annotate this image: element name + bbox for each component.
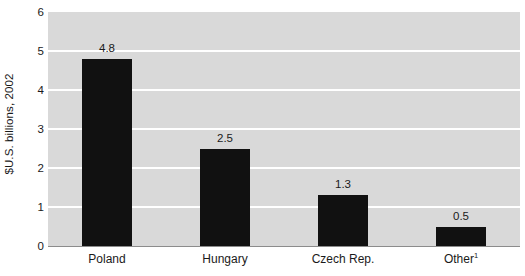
bar-value-label: 4.8 bbox=[77, 42, 137, 55]
y-axis-tick-label: 5 bbox=[22, 45, 44, 57]
y-axis-tick-label: 2 bbox=[22, 162, 44, 174]
bars-layer: 4.82.51.30.5 bbox=[48, 12, 520, 246]
plot-area: 4.82.51.30.5 bbox=[48, 12, 520, 246]
y-axis-tick-label: 3 bbox=[22, 123, 44, 135]
y-axis-tick-label: 6 bbox=[22, 6, 44, 18]
bar bbox=[436, 227, 486, 247]
x-axis-category-label: Hungary bbox=[165, 252, 285, 266]
x-axis-category-labels: PolandHungaryCzech Rep.Other1 bbox=[48, 252, 520, 272]
bar bbox=[318, 195, 368, 246]
bar-value-label: 2.5 bbox=[195, 132, 255, 145]
x-axis-category-label: Czech Rep. bbox=[283, 252, 403, 266]
bar-chart: $U.S. billions, 2002 6543210 4.82.51.30.… bbox=[0, 0, 525, 276]
bar-value-label: 0.5 bbox=[431, 210, 491, 223]
y-axis-tick-label: 1 bbox=[22, 201, 44, 213]
x-axis-category-label: Poland bbox=[47, 252, 167, 266]
x-axis-category-label: Other1 bbox=[401, 252, 521, 266]
footnote-marker: 1 bbox=[474, 251, 478, 260]
y-axis-title: $U.S. billions, 2002 bbox=[1, 1, 17, 247]
y-axis-tick-label: 4 bbox=[22, 84, 44, 96]
bar-value-label: 1.3 bbox=[313, 178, 373, 191]
bar bbox=[82, 59, 132, 246]
bar bbox=[200, 149, 250, 247]
x-axis-line bbox=[48, 246, 520, 247]
y-axis-tick-label: 0 bbox=[22, 240, 44, 252]
y-axis-tick-labels: 6543210 bbox=[22, 0, 44, 276]
